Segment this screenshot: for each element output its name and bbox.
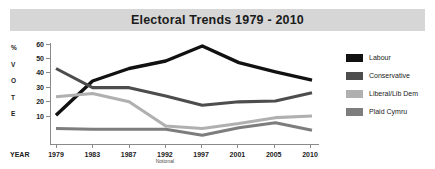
plot-area (50, 43, 318, 143)
x-tick-mark-2001 (237, 144, 238, 148)
legend-label-liberal-lib-dem: Liberal/Lib Dem (369, 90, 418, 98)
series-line-plaid-cymru (56, 123, 312, 136)
x-tick-mark-1983 (92, 144, 93, 148)
series-line-labour (56, 46, 312, 115)
legend-item-liberal-lib-dem[interactable]: Liberal/Lib Dem (346, 85, 432, 103)
y-tick-label-60: 60 (24, 41, 44, 48)
x-axis-label: YEAR (10, 151, 29, 158)
y-axis-title-letter-4: E (11, 106, 23, 123)
x-tick-mark-1992 (165, 144, 166, 148)
y-axis-title: % V O T E (11, 40, 23, 140)
y-axis-title-letter-1: V (11, 57, 23, 74)
legend-item-plaid-cymru[interactable]: Plaid Cymru (346, 103, 432, 121)
y-axis-title-letter-0: % (11, 40, 23, 57)
legend-label-labour: Labour (369, 54, 391, 62)
legend-swatch-liberal-lib-dem (346, 90, 363, 98)
legend-swatch-plaid-cymru (346, 108, 363, 116)
legend-swatch-conservative (346, 72, 363, 80)
chart-title-bar: Electoral Trends 1979 - 2010 (10, 9, 425, 31)
legend-item-labour[interactable]: Labour (346, 49, 432, 67)
legend-item-conservative[interactable]: Conservative (346, 67, 432, 85)
y-tick-label-20: 20 (24, 98, 44, 105)
x-tick-label-1987: 1987 (109, 151, 149, 159)
x-tick-mark-1979 (56, 144, 57, 148)
chart-legend: Labour Conservative Liberal/Lib Dem Plai… (346, 49, 432, 121)
y-tick-label-30: 30 (24, 84, 44, 91)
x-tick-mark-1987 (129, 144, 130, 148)
series-lines (50, 43, 318, 143)
x-tick-label-1979: 1979 (36, 151, 76, 159)
x-tick-label-1997: 1997 (181, 151, 221, 159)
x-tick-label-2005: 2005 (254, 151, 294, 159)
x-tick-mark-2005 (274, 144, 275, 148)
y-axis-title-letter-3: T (11, 90, 23, 107)
y-tick-label-40: 40 (24, 69, 44, 76)
y-tick-label-10: 10 (24, 113, 44, 120)
x-axis-line (50, 144, 319, 145)
x-tick-label-1983: 1983 (72, 151, 112, 159)
legend-label-plaid-cymru: Plaid Cymru (369, 108, 407, 116)
chart-screenshot: Electoral Trends 1979 - 2010 % V O T E 6… (0, 0, 435, 169)
x-tick-mark-2010 (310, 144, 311, 148)
y-axis-title-letter-2: O (11, 73, 23, 90)
page-title: Electoral Trends 1979 - 2010 (10, 9, 425, 31)
x-tick-mark-1997 (201, 144, 202, 148)
legend-label-conservative: Conservative (369, 72, 410, 80)
x-tick-label-2001: 2001 (217, 151, 257, 159)
y-tick-label-50: 50 (24, 55, 44, 62)
series-line-conservative (56, 69, 312, 106)
x-tick-label-2010: 2010 (290, 151, 330, 159)
legend-swatch-labour (346, 54, 363, 62)
x-tick-sublabel-1992: Notional (145, 158, 185, 164)
